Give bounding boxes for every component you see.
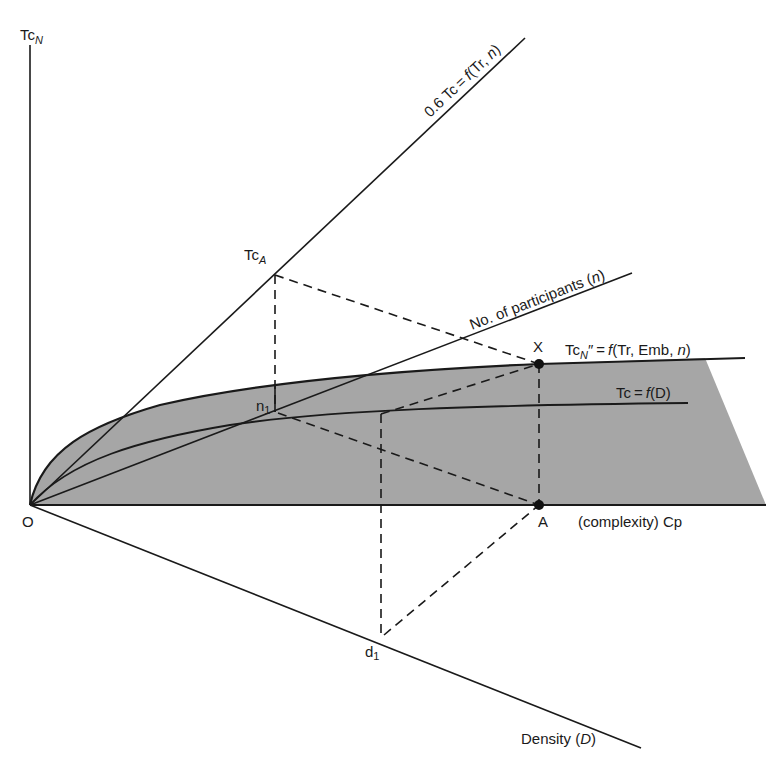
- density-axis: [30, 505, 641, 748]
- line-0-6-tc-label: 0.6 Tc = f(Tr, n): [420, 41, 503, 121]
- point-a-marker: [534, 500, 544, 510]
- tcn-curve-label: TcN″ = f(Tr, Emb, n): [565, 341, 691, 361]
- tc-complexity-diagram: TcN O (complexity) Cp Density (D) 0.6 Tc…: [0, 0, 784, 765]
- tc-density-curve-label: Tc = f(D): [616, 384, 671, 401]
- point-x-label: X: [533, 338, 543, 355]
- point-x-marker: [534, 359, 544, 369]
- point-a-label: A: [538, 513, 548, 530]
- vertical-axis-label: TcN: [20, 26, 43, 46]
- density-axis-label: Density (D): [521, 730, 596, 747]
- point-tca-label: TcA: [244, 246, 266, 266]
- dash-d1-to-a: [384, 505, 539, 635]
- origin-label: O: [22, 513, 34, 530]
- complexity-axis-label: (complexity) Cp: [578, 513, 682, 530]
- participants-line-label: No. of participants (n): [467, 266, 607, 333]
- shaded-feasible-region: [30, 358, 766, 505]
- point-d1-label: d1: [365, 643, 379, 662]
